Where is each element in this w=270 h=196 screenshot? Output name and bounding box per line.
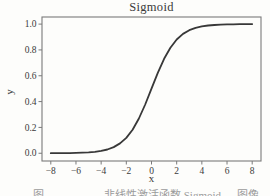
y-tick-label: 0.4 xyxy=(25,97,37,107)
sigmoid-plot: −8−6−4−2024680.00.20.40.60.81.0 xyxy=(0,0,270,196)
caption-fragment: 非线性激活函数 Sigmoid xyxy=(104,189,221,196)
caption-fragment: 图像 xyxy=(237,189,259,196)
figure-page: Sigmoid −8−6−4−2024680.00.20.40.60.81.0 … xyxy=(0,0,270,196)
y-tick-label: 0.0 xyxy=(25,148,37,158)
sigmoid-curve xyxy=(51,24,252,153)
y-tick-label: 0.8 xyxy=(25,45,37,55)
figure-caption-clipped: 图 非线性激活函数 Sigmoid 图像 xyxy=(0,189,270,196)
y-tick-label: 0.2 xyxy=(25,123,37,133)
caption-fragment: 图 xyxy=(33,189,44,196)
y-tick-label: 0.6 xyxy=(25,71,37,81)
y-axis-label: y xyxy=(2,85,16,99)
x-axis-label: x xyxy=(42,173,261,184)
y-tick-label: 1.0 xyxy=(25,19,37,29)
